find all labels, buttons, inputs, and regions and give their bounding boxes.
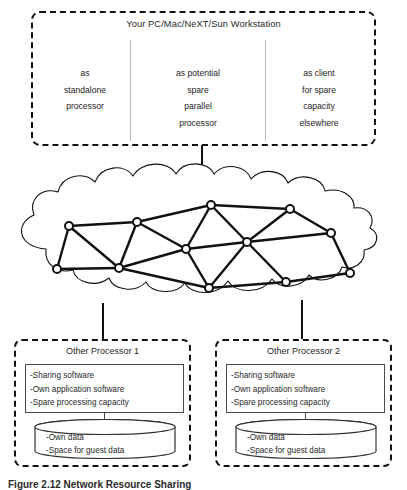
network-node <box>327 229 335 237</box>
role-line: as <box>41 65 129 82</box>
role-line: capacity <box>267 98 371 115</box>
role-line: parallel <box>132 98 264 115</box>
capability-line: -Spare processing capacity <box>231 396 384 410</box>
processor-2-capabilities: -Sharing software -Own application softw… <box>226 364 385 413</box>
column-divider-1 <box>130 40 131 141</box>
role-line: as client <box>267 65 371 82</box>
processor-1-capabilities: -Sharing software -Own application softw… <box>25 364 184 413</box>
role-line: processor <box>132 115 264 132</box>
capability-line: -Own application software <box>231 383 384 397</box>
processor-2-datastore: -Own data -Space for guest data <box>235 419 377 459</box>
network-node <box>207 201 215 209</box>
processor-panel-1: Other Processor 1 -Sharing software -Own… <box>14 339 191 467</box>
capability-line: -Sharing software <box>30 369 183 383</box>
role-line: as potential <box>132 65 264 82</box>
workstation-role-standalone: as standalone processor <box>41 65 129 115</box>
processor-1-datastore: -Own data -Space for guest data <box>34 419 176 459</box>
network-node <box>115 264 123 272</box>
network-node <box>133 218 141 226</box>
network-node <box>53 265 61 273</box>
network-node <box>282 278 290 286</box>
network-node <box>243 238 251 246</box>
capability-line: -Spare processing capacity <box>30 396 183 410</box>
column-divider-2 <box>265 40 266 141</box>
datastore-line: -Space for guest data <box>247 444 373 457</box>
processor-2-title: Other Processor 2 <box>217 346 390 356</box>
network-node <box>346 269 354 277</box>
processor-2-datastore-text: -Own data -Space for guest data <box>247 431 373 457</box>
network-node <box>182 245 190 253</box>
network-node <box>286 205 294 213</box>
network-cloud <box>0 162 407 310</box>
role-line: for spare <box>267 82 371 99</box>
workstation-title: Your PC/Mac/NeXT/Sun Workstation <box>33 19 374 29</box>
datastore-line: -Own data <box>46 431 172 444</box>
role-line: standalone <box>41 82 129 99</box>
figure-caption: Figure 2.12 Network Resource Sharing <box>8 479 191 490</box>
network-edge <box>57 268 119 269</box>
processor-panel-2: Other Processor 2 -Sharing software -Own… <box>215 339 392 467</box>
processor-1-datastore-text: -Own data -Space for guest data <box>46 431 172 457</box>
capability-line: -Own application software <box>30 383 183 397</box>
network-node <box>65 222 73 230</box>
capability-line: -Sharing software <box>231 369 384 383</box>
role-line: processor <box>41 98 129 115</box>
processor-1-title: Other Processor 1 <box>16 346 189 356</box>
workstation-role-client: as client for spare capacity elsewhere <box>267 65 371 131</box>
workstation-panel: Your PC/Mac/NeXT/Sun Workstation as stan… <box>31 11 376 146</box>
workstation-role-parallel: as potential spare parallel processor <box>132 65 264 131</box>
datastore-line: -Space for guest data <box>46 444 172 457</box>
datastore-line: -Own data <box>247 431 373 444</box>
network-node <box>205 284 213 292</box>
role-line: elsewhere <box>267 115 371 132</box>
role-line: spare <box>132 82 264 99</box>
